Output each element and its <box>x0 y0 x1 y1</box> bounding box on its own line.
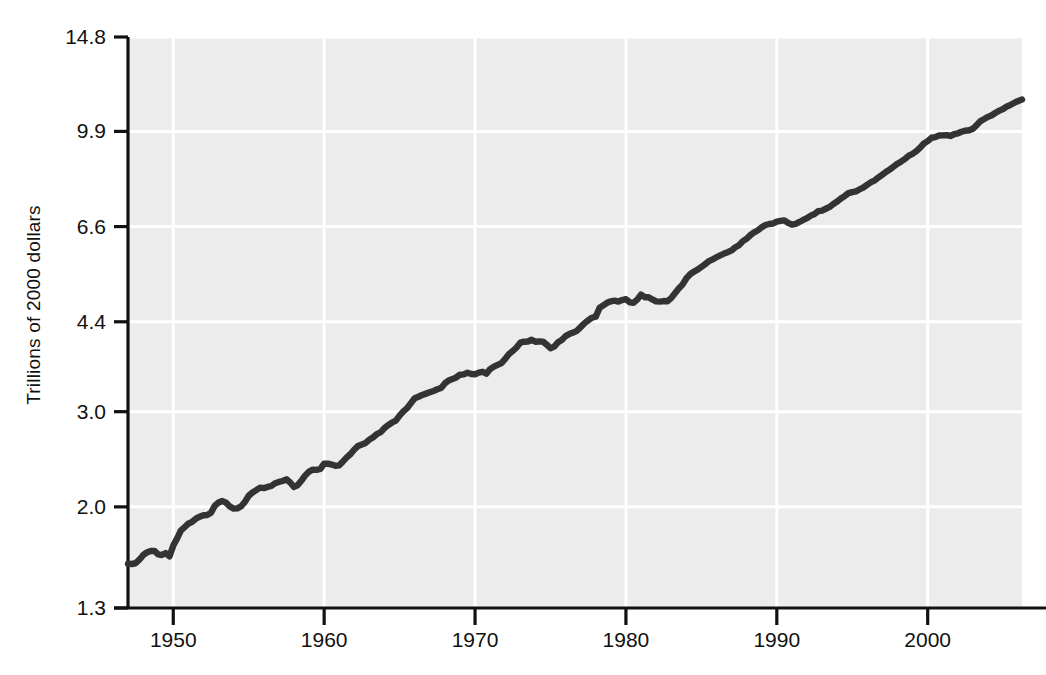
plot-area <box>0 0 1046 675</box>
x-axis-tick-label: 2000 <box>883 628 973 652</box>
gdp-log-line-chart: Trillions of 2000 dollars 1.32.03.04.46.… <box>0 0 1046 675</box>
x-axis-tick-label: 1950 <box>128 628 218 652</box>
x-axis-tick-label: 1960 <box>279 628 369 652</box>
x-axis-tick-label: 1980 <box>581 628 671 652</box>
x-axis-tick-label: 1970 <box>430 628 520 652</box>
x-axis-tick-label: 1990 <box>732 628 822 652</box>
